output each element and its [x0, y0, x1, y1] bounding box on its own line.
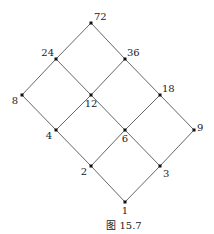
- node-9: [193, 129, 196, 132]
- node-label-36: 36: [127, 47, 140, 58]
- node-3: [159, 165, 162, 168]
- edge-9-3: [160, 130, 194, 166]
- node-72: [90, 22, 93, 25]
- node-label-3: 3: [163, 168, 169, 179]
- edge-36-12: [91, 59, 125, 95]
- edge-8-4: [22, 95, 56, 130]
- edge-18-6: [125, 95, 160, 130]
- node-6: [124, 129, 127, 132]
- edge-6-3: [125, 130, 160, 166]
- node-label-6: 6: [122, 133, 128, 144]
- node-label-18: 18: [162, 83, 175, 94]
- node-1: [124, 201, 127, 204]
- node-label-72: 72: [94, 11, 107, 22]
- node-4: [55, 129, 58, 132]
- hasse-diagram: 72243681218469231: [0, 0, 214, 234]
- figure-caption: 图 15.7: [0, 217, 214, 232]
- edge-2-1: [91, 166, 125, 202]
- node-label-2: 2: [81, 166, 87, 177]
- node-8: [21, 94, 24, 97]
- edge-72-24: [56, 23, 91, 59]
- node-label-24: 24: [41, 47, 54, 58]
- node-label-9: 9: [197, 122, 203, 133]
- node-label-8: 8: [12, 95, 18, 106]
- edge-4-2: [56, 130, 91, 166]
- node-12: [90, 94, 93, 97]
- node-label-1: 1: [122, 205, 128, 216]
- edge-3-1: [125, 166, 160, 202]
- node-label-4: 4: [46, 130, 52, 141]
- node-label-12: 12: [85, 98, 98, 109]
- edge-36-18: [125, 59, 160, 95]
- node-2: [90, 165, 93, 168]
- edge-6-2: [91, 130, 125, 166]
- node-24: [55, 58, 58, 61]
- edge-24-12: [56, 59, 91, 95]
- edge-72-36: [91, 23, 125, 59]
- edge-18-9: [160, 95, 194, 130]
- edge-24-8: [22, 59, 56, 95]
